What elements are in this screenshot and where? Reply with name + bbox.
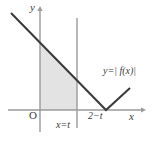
y-axis-arrow-icon [37, 6, 42, 11]
curve-label: y=| f(x)| [103, 66, 136, 76]
math-figure: y x O x=t 2−t y=| f(x)| [0, 0, 166, 141]
x-intercept-label: 2−t [88, 111, 103, 121]
y-axis-label: y [30, 2, 35, 13]
origin-label: O [29, 110, 37, 121]
x-axis-arrow-icon [141, 107, 146, 112]
x-axis-label: x [129, 111, 134, 122]
graph-canvas [0, 0, 166, 141]
vertical-line-label: x=t [56, 120, 70, 130]
shaded-region [40, 43, 77, 110]
